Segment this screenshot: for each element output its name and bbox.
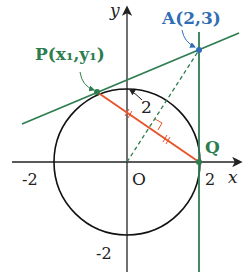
label-arrow-P — [80, 72, 94, 90]
point-label-A: A(2,3) — [161, 8, 221, 28]
x-tick-neg2: -2 — [22, 170, 38, 189]
point-label-P: P(x₁,y₁) — [35, 44, 105, 64]
origin-label: O — [132, 169, 146, 189]
diagram-canvas: y x O -2 2 -2 2 A(2,3) P(x₁,y₁) Q — [0, 0, 249, 276]
radius-label: 2 — [141, 97, 152, 117]
point-label-Q: Q — [205, 137, 220, 157]
point-A — [196, 47, 202, 53]
point-Q — [196, 159, 202, 165]
label-arrow-A — [182, 30, 195, 47]
axis-label-x: x — [228, 167, 238, 187]
segment-OA-dashed — [127, 50, 199, 162]
right-angle-mark — [155, 119, 162, 130]
axis-label-y: y — [109, 0, 120, 20]
x-tick-2: 2 — [205, 170, 215, 189]
point-P — [94, 89, 100, 95]
y-tick-neg2: -2 — [96, 244, 112, 263]
